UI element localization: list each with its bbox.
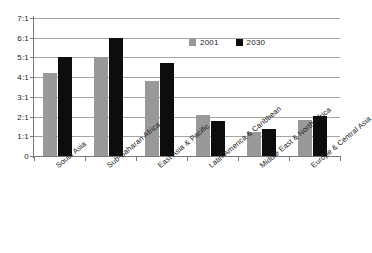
bar-2001 [247, 132, 261, 156]
bar-group [94, 18, 123, 156]
x-tick-mark [289, 157, 290, 161]
bar-2001 [43, 73, 57, 156]
y-tick-label: 0 [24, 152, 29, 161]
bar-2030 [313, 116, 327, 156]
y-tick-label: 4:1 [17, 73, 29, 82]
y-tick-mark [30, 136, 34, 137]
y-tick-label: 5:1 [17, 53, 29, 62]
bar-2001 [298, 120, 312, 156]
gridline [34, 57, 340, 58]
x-tick-mark [85, 157, 86, 161]
y-tick-label: 1:1 [17, 132, 29, 141]
bar-group [298, 18, 327, 156]
legend-item-2030: 2030 [236, 38, 266, 47]
bar-2030 [160, 63, 174, 156]
bar-2030 [262, 129, 276, 156]
x-tick-mark [187, 157, 188, 161]
gridline [34, 77, 340, 78]
legend-label-2001: 2001 [200, 38, 219, 47]
bar-group [43, 18, 72, 156]
y-tick-mark [30, 97, 34, 98]
y-tick-label: 7:1 [17, 14, 29, 23]
legend-label-2030: 2030 [247, 38, 266, 47]
bar-2001 [94, 57, 108, 156]
plot-area [34, 18, 340, 156]
y-tick-label: 2:1 [17, 112, 29, 121]
y-tick-mark [30, 38, 34, 39]
gridline [34, 38, 340, 39]
gridline [34, 97, 340, 98]
x-tick-mark [340, 157, 341, 161]
bar-2030 [211, 121, 225, 156]
x-tick-mark [34, 157, 35, 161]
y-tick-label: 6:1 [17, 33, 29, 42]
bar-2001 [145, 81, 159, 156]
y-tick-mark [30, 18, 34, 19]
gridline [34, 136, 340, 137]
y-tick-mark [30, 117, 34, 118]
y-tick-mark [30, 77, 34, 78]
y-tick-label: 3:1 [17, 92, 29, 101]
bar-group [145, 18, 174, 156]
legend-item-2001: 2001 [189, 38, 219, 47]
gridline [34, 18, 340, 19]
bar-2001 [196, 115, 210, 156]
bar-2030 [58, 57, 72, 156]
x-tick-mark [238, 157, 239, 161]
legend: 2001 2030 [189, 38, 265, 47]
legend-swatch-icon-2030 [236, 39, 243, 46]
gridline [34, 117, 340, 118]
bar-2030 [109, 38, 123, 156]
y-tick-mark [30, 57, 34, 58]
legend-swatch-icon-2001 [189, 39, 196, 46]
x-tick-mark [136, 157, 137, 161]
